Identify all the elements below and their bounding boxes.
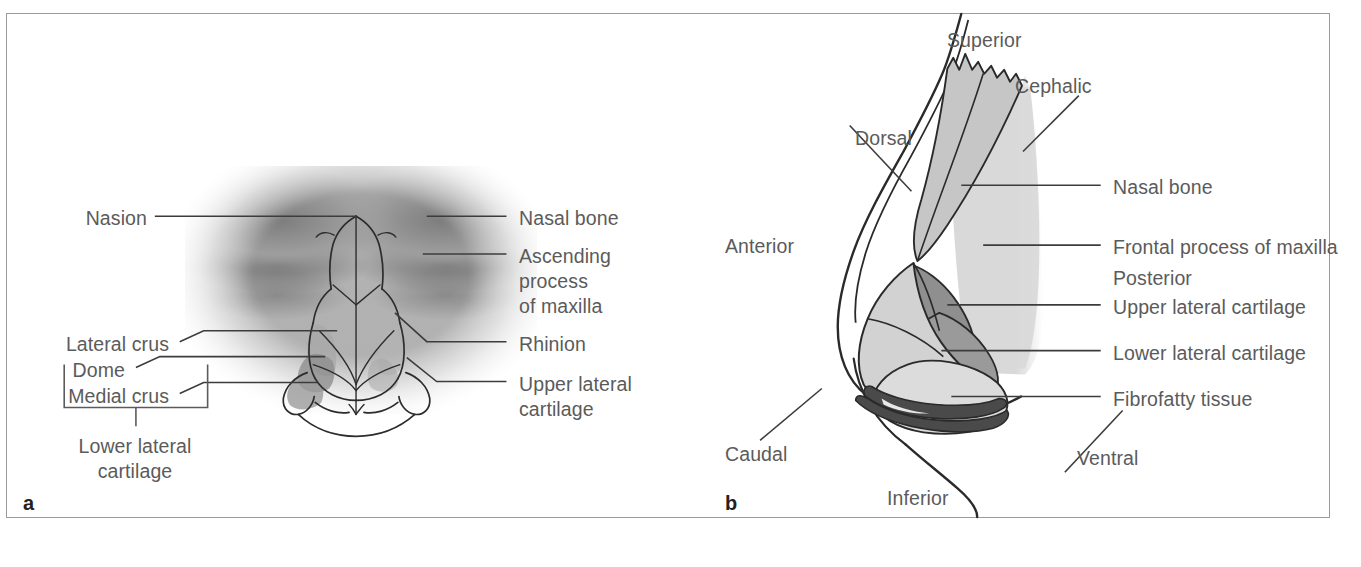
label-superior: Superior [947, 28, 1022, 53]
fibrofatty-tissue-shape [873, 361, 1007, 434]
panel-b-leader-lines [760, 96, 1123, 473]
nostril-dark-shape [864, 386, 1007, 419]
label-medial-crus: Medial crus [7, 384, 169, 409]
cartilage-inner-line-2 [868, 319, 944, 357]
label-ascending-process-line2: process [519, 270, 588, 292]
label-fibrofatty-tissue: Fibrofatty tissue [1113, 387, 1252, 412]
anatomy-figure: Nasion Lateral crus Dome Medial crus Low… [0, 0, 1361, 567]
skin-profile-inner-contour [855, 20, 968, 323]
label-anterior: Anterior [725, 234, 794, 259]
label-inferior: Inferior [887, 486, 949, 511]
label-ventral: Ventral [1077, 446, 1138, 471]
panel-b: Superior Cephalic Dorsal Anterior Caudal… [725, 14, 1331, 517]
figure-frame: Nasion Lateral crus Dome Medial crus Low… [6, 13, 1330, 518]
skin-profile-contour [838, 14, 1021, 414]
label-caudal: Caudal [725, 442, 787, 467]
nostril-highlight [882, 398, 930, 413]
label-frontal-process-of-maxilla: Frontal process of maxilla [1113, 235, 1338, 260]
leader-caudal [760, 389, 822, 441]
label-rhinion: Rhinion [519, 332, 586, 357]
label-nasion: Nasion [25, 206, 147, 231]
label-lower-lateral-cartilage-b: Lower lateral cartilage [1113, 341, 1306, 366]
panel-a: Nasion Lateral crus Dome Medial crus Low… [7, 14, 725, 517]
label-upper-lateral-cartilage-a-line1: Upper lateral [519, 373, 632, 395]
label-upper-lateral-cartilage-a-line2: cartilage [519, 398, 594, 420]
label-upper-lateral-cartilage-a: Upper lateralcartilage [519, 372, 632, 422]
dorsum-cartilage-shape [859, 263, 993, 412]
label-ascending-process-line3: of maxilla [519, 295, 602, 317]
label-dorsal: Dorsal [855, 126, 912, 151]
leader-cephalic [1023, 96, 1079, 152]
nasal-bone-shape [914, 54, 1022, 261]
panel-b-letter: b [725, 492, 737, 515]
face-silhouette [947, 54, 1043, 375]
alar-rim-dark-shape [856, 396, 1009, 432]
nasal-bone-inner-line [917, 74, 983, 261]
label-dome: Dome [7, 358, 125, 383]
lower-face-contour-2 [854, 359, 906, 445]
label-nasal-bone-a: Nasal bone [519, 206, 619, 231]
frontal-nose-photograph [185, 166, 537, 414]
label-posterior: Posterior [1113, 266, 1192, 291]
upper-lateral-cartilage-shape [909, 265, 975, 347]
lower-lateral-cartilage-shape [920, 313, 998, 396]
label-nasal-bone-b: Nasal bone [1113, 175, 1213, 200]
label-lower-lateral-cartilage: Lower lateralcartilage [17, 434, 253, 484]
label-lower-lateral-cartilage-line2: cartilage [98, 460, 173, 482]
label-ascending-process-line1: Ascending [519, 245, 611, 267]
label-lateral-crus: Lateral crus [7, 332, 169, 357]
label-ascending-process-of-maxilla: Ascendingprocessof maxilla [519, 244, 611, 319]
photo-vignette [181, 162, 541, 418]
label-lower-lateral-cartilage-line1: Lower lateral [79, 435, 192, 457]
cartilage-inner-line-1 [913, 263, 939, 331]
panel-a-letter: a [23, 492, 34, 515]
label-cephalic: Cephalic [1015, 74, 1092, 99]
label-upper-lateral-cartilage-b: Upper lateral cartilage [1113, 295, 1306, 320]
face-silhouette-fill [949, 72, 1039, 369]
